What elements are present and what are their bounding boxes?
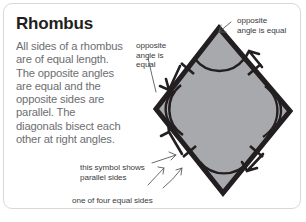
rhombus-info-card: Rhombus All sides of a rhombus are of eq… — [3, 3, 301, 209]
callout-opposite-angle-top: opposite angle is equal — [237, 16, 286, 35]
rhombus-shape — [156, 28, 290, 193]
callout-opposite-angle-left: opposite angle is equal — [136, 41, 166, 70]
callout-parallel-sides: this symbol shows parallel sides — [80, 163, 145, 182]
callout-equal-sides: one of four equal sides — [72, 196, 153, 206]
rhombus-polygon — [156, 28, 290, 193]
